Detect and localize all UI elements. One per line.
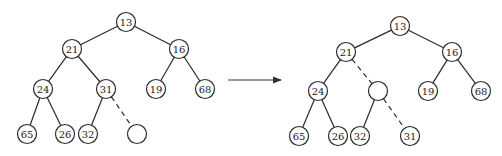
after-edge-24-65 (303, 100, 315, 127)
before-edge-16-68 (184, 57, 200, 81)
after-edge-21-24 (324, 60, 341, 84)
before-edge-31-hole (111, 97, 131, 126)
before-node-13: 13 (117, 13, 136, 32)
before-edge-21-24 (49, 57, 67, 82)
after-edge-16-19 (433, 60, 447, 83)
before-node-16: 16 (170, 40, 189, 59)
after-node-32: 32 (351, 127, 370, 146)
node-label: 16 (446, 47, 459, 58)
after-edge-hole-31 (384, 99, 405, 129)
after-edge-21-hole (352, 59, 372, 83)
after-edge-16-68 (458, 60, 476, 84)
before-edge-24-65 (30, 98, 40, 125)
node-label: 19 (422, 86, 435, 97)
after-node-16: 16 (443, 43, 462, 62)
after-node-26: 26 (329, 127, 348, 146)
after-node-31: 31 (401, 127, 420, 146)
node-label: 21 (66, 44, 79, 55)
after-node-19: 19 (419, 82, 438, 101)
before-edge-13-21 (80, 26, 117, 45)
before-node-hole (128, 125, 147, 144)
before-edge-21-31 (78, 56, 100, 82)
node-label: 31 (404, 131, 417, 142)
node-label: 32 (354, 131, 367, 142)
node-circle (128, 125, 147, 144)
node-label: 19 (150, 84, 163, 95)
after-node-68: 68 (472, 82, 491, 101)
node-label: 32 (82, 129, 95, 140)
node-label: 65 (21, 129, 34, 140)
node-label: 31 (100, 84, 113, 95)
before-node-31: 31 (97, 80, 116, 99)
node-label: 68 (475, 86, 488, 97)
after-edge-13-16 (408, 30, 443, 48)
node-label: 13 (394, 21, 407, 32)
before-node-24: 24 (34, 80, 53, 99)
after-node-21: 21 (337, 43, 356, 62)
heap-diagram: 13211624311968652632 1321162419686526323… (0, 0, 502, 156)
before-edge-16-19 (161, 57, 175, 81)
after-edge-24-26 (322, 100, 334, 128)
after-node-24: 24 (309, 82, 328, 101)
node-label: 13 (120, 17, 133, 28)
after-edge-13-21 (355, 30, 392, 48)
after-node-hole (369, 82, 388, 101)
node-label: 26 (59, 129, 72, 140)
before-edge-13-16 (134, 26, 170, 44)
before-edge-24-26 (47, 98, 61, 126)
after-edge-hole-32 (364, 100, 375, 127)
node-label: 16 (173, 44, 186, 55)
after-node-65: 65 (290, 127, 309, 146)
node-label: 24 (37, 84, 50, 95)
before-node-26: 26 (56, 125, 75, 144)
node-circle (369, 82, 388, 101)
node-label: 26 (332, 131, 345, 142)
tree-after: 13211624196865263231 (290, 17, 491, 146)
node-label: 68 (199, 84, 212, 95)
node-label: 24 (312, 86, 325, 97)
node-label: 21 (340, 47, 353, 58)
before-node-21: 21 (63, 40, 82, 59)
node-label: 65 (293, 131, 306, 142)
before-node-68: 68 (196, 80, 215, 99)
before-node-65: 65 (18, 125, 37, 144)
before-edge-31-32 (92, 98, 103, 125)
before-node-32: 32 (79, 125, 98, 144)
tree-before: 13211624311968652632 (18, 13, 215, 144)
before-node-19: 19 (147, 80, 166, 99)
after-node-13: 13 (391, 17, 410, 36)
